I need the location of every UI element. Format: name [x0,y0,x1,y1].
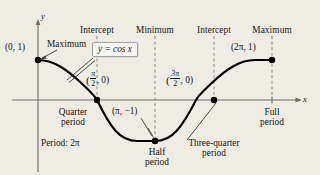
quarter-fraction-denominator: 2 [90,79,96,87]
y-axis-label: y [41,12,45,21]
point-label-quarter-suffix: , 0) [97,75,109,85]
point-label-end: (2π, 1) [231,43,256,53]
equation-callout: y = cos x [92,42,138,57]
bottom-label-half-period: Half period [145,148,169,168]
bottom-label-full-period-line2: period [260,118,284,128]
three-quarter-fraction-numerator: 3π [170,70,180,79]
period-note: Period: 2π [41,139,80,149]
x-axis-label: x [303,95,307,104]
bottom-label-quarter-period: Quarter period [59,108,87,128]
bottom-label-three-quarter-period-line2: period [188,149,239,159]
leader-min-point [141,118,152,136]
top-label-minimum: Minimum [136,26,174,36]
bottom-label-three-quarter-period: Three-quarter period [188,139,239,159]
top-label-maximum: Maximum [252,26,291,36]
point-halfpi-0 [94,97,100,103]
point-2pi-1 [269,57,275,63]
point-label-three-quarter-fraction: 3π2 [170,70,180,88]
top-label-intercept-quarter: Intercept [80,26,114,36]
point-label-three-quarter-open-paren: ( [166,74,170,86]
point-label-quarter: (π2, 0) [86,70,109,88]
cosine-graph-figure: Intercept Minimum Intercept Maximum y x … [0,0,320,175]
point-label-minimum: (π, −1) [112,107,137,117]
quarter-fraction-numerator: π [90,70,96,79]
x-axis-arrow [296,97,303,102]
point-label-quarter-open-paren: ( [86,74,90,86]
point-pi-neg1 [152,138,158,144]
bottom-label-full-period: Full period [260,108,284,128]
point-0-1 [35,57,41,63]
point-threehalfpi-0 [211,97,217,103]
leader-half-period [148,128,154,138]
point-label-three-quarter-suffix: , 0) [181,75,193,85]
equation-callout-text: y = cos x [98,44,132,54]
bottom-label-half-period-line2: period [145,158,169,168]
three-quarter-fraction-denominator: 2 [170,79,180,87]
maximum-left-label: Maximum [47,40,86,50]
top-label-intercept-three-quarter: Intercept [197,26,231,36]
y-axis-arrow [36,19,41,25]
point-label-quarter-fraction: π2 [90,70,96,88]
point-label-three-quarter: (3π2, 0) [166,70,193,88]
point-label-origin: (0, 1) [5,43,25,53]
bottom-label-quarter-period-line2: period [59,118,87,128]
